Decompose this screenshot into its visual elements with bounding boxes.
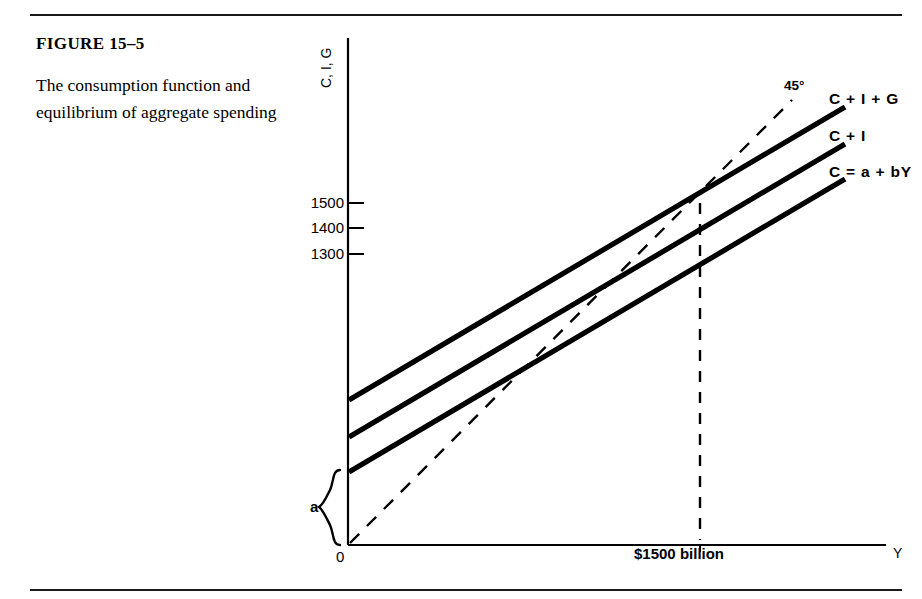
forty-five-degree-line [350, 100, 792, 543]
y-tick-label-1400: 1400 [288, 219, 344, 236]
y-tick-label-1500: 1500 [288, 194, 344, 211]
figure-container: FIGURE 15–5 The consumption function and… [0, 0, 922, 599]
curve-label-c-plus-i-plus-g: C + I + G [829, 90, 899, 108]
y-axis-title: C, I, G [318, 48, 334, 88]
y-tick-label-1300: 1300 [288, 245, 344, 262]
origin-label: 0 [336, 548, 344, 565]
forty-five-degree-label: 45° [784, 78, 804, 93]
intercept-brace [319, 470, 340, 545]
curve-label-consumption-function: C = a + bY [829, 163, 912, 181]
intercept-label-a: a [310, 498, 318, 515]
x-axis-title: Y [893, 545, 902, 561]
line-c-plus-i-plus-g [349, 107, 845, 400]
x-tick-label-equilibrium: $1500 billion [634, 545, 724, 562]
curve-label-c-plus-i: C + I [829, 127, 866, 145]
line-c-plus-i [349, 144, 845, 437]
line-consumption-function [349, 179, 845, 472]
